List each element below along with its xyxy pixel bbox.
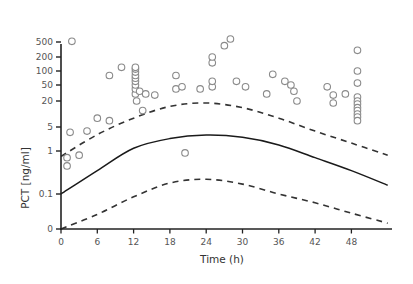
data-point xyxy=(354,117,361,124)
y-tick-label: 0.1 xyxy=(39,189,53,199)
y-axis-title: PCT [ng/ml] xyxy=(19,147,31,209)
data-point xyxy=(233,78,240,85)
observed-points xyxy=(64,36,361,169)
x-ticks: 0612182430364248 xyxy=(58,229,357,247)
data-point xyxy=(354,80,361,87)
median-line xyxy=(61,135,388,194)
data-point xyxy=(263,91,270,98)
y-tick-label: 500 xyxy=(36,37,53,47)
data-point xyxy=(209,54,216,61)
data-point xyxy=(354,68,361,75)
y-tick-label: 0 xyxy=(47,224,53,234)
data-point xyxy=(324,84,331,91)
data-point xyxy=(133,98,140,105)
data-point xyxy=(76,152,83,159)
x-tick-label: 0 xyxy=(58,237,64,247)
data-point xyxy=(106,117,113,124)
data-point xyxy=(69,38,76,45)
y-tick-label: 50 xyxy=(42,80,54,90)
data-point xyxy=(84,128,91,135)
y-tick-label: 20 xyxy=(42,96,54,106)
data-point xyxy=(269,71,276,78)
x-axis-title: Time (h) xyxy=(199,253,244,265)
x-tick-label: 6 xyxy=(94,237,100,247)
data-point xyxy=(342,91,349,98)
data-point xyxy=(151,92,158,99)
data-point xyxy=(330,100,337,107)
x-tick-label: 24 xyxy=(200,237,212,247)
data-point xyxy=(106,72,113,79)
data-point xyxy=(142,91,149,98)
data-point xyxy=(330,92,337,99)
data-point xyxy=(118,64,125,71)
y-tick-label: 200 xyxy=(36,52,53,62)
data-point xyxy=(354,47,361,54)
prediction-bound-line xyxy=(61,103,388,156)
pct-chart: 00.1152050100200500 0612182430364248 Tim… xyxy=(0,0,413,284)
data-point xyxy=(282,78,289,85)
data-point xyxy=(288,82,295,89)
data-point xyxy=(182,150,189,157)
y-tick-label: 5 xyxy=(47,122,53,132)
data-point xyxy=(291,88,298,95)
data-point xyxy=(132,64,139,71)
data-point xyxy=(179,84,186,91)
data-point xyxy=(294,98,301,105)
data-point xyxy=(209,78,216,85)
x-tick-label: 12 xyxy=(128,237,139,247)
data-point xyxy=(139,107,146,114)
y-tick-label: 100 xyxy=(36,66,53,76)
data-point xyxy=(242,84,249,91)
data-point xyxy=(64,163,71,170)
data-point xyxy=(197,86,204,93)
data-point xyxy=(94,115,101,122)
data-point xyxy=(227,36,234,43)
x-tick-label: 42 xyxy=(309,237,320,247)
y-ticks: 00.1152050100200500 xyxy=(36,37,61,234)
data-point xyxy=(221,42,228,49)
x-tick-label: 48 xyxy=(346,237,358,247)
x-tick-label: 30 xyxy=(237,237,249,247)
y-tick-label: 1 xyxy=(47,146,53,156)
x-tick-label: 36 xyxy=(273,237,285,247)
data-point xyxy=(173,72,180,79)
data-point xyxy=(64,154,71,161)
prediction-bound-line xyxy=(61,179,388,229)
x-tick-label: 18 xyxy=(164,237,176,247)
data-point xyxy=(67,129,74,136)
